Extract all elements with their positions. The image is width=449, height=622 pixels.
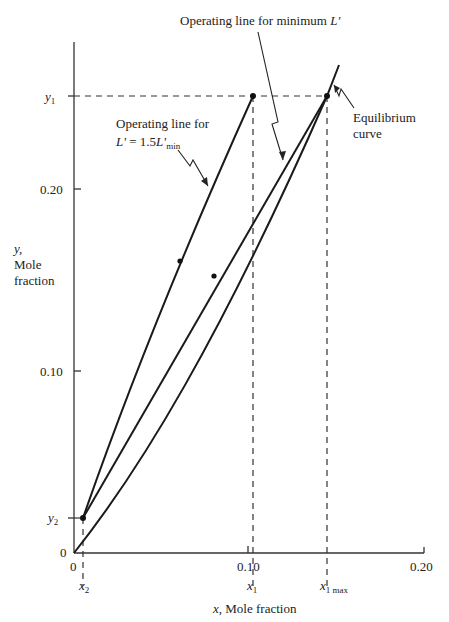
xtick-label-x1max: x1 max [319,578,349,595]
ytick-label-y1: y1 [43,89,55,106]
xtick-label-0: 0 [70,559,77,574]
arrowhead-min-line [279,151,286,160]
annotation-min-line: Operating line for minimum L' [180,13,340,28]
annotation-equilibrium-1: Equilibrium [353,110,416,125]
operating-line-minimum [83,96,327,518]
ytick-label-010: 0.10 [40,364,63,379]
point-x2-y2 [80,515,86,521]
xtick-label-x1: x1 [246,578,257,595]
xtick-label-020: 0.20 [410,559,433,574]
midpoint-min-line [211,273,216,278]
chart-canvas: Operating line for minimum L' Operating … [0,0,449,622]
y-axis-label-var: y, [12,241,22,256]
ytick-label-y2: y2 [46,510,58,527]
ytick-label-020: 0.20 [40,182,63,197]
y-axis-label-2: fraction [14,273,55,288]
point-x1max-y1 [324,93,330,99]
xtick-label-x2: x2 [78,578,89,595]
midpoint-1-5-line [177,258,182,263]
y-axis-label-1: Mole [14,257,42,272]
ytick-label-0: 0 [60,545,67,560]
annotation-1-5-line-1: Operating line for [116,116,210,131]
x-axis-label: x, Mole fraction [212,601,297,616]
equilibrium-curve [74,65,339,553]
annotation-equilibrium-2: curve [353,126,382,141]
point-x1-y1 [250,93,256,99]
arrowhead-1-5-line [201,177,208,186]
xtick-label-010: 0.10 [237,559,260,574]
annotation-1-5-line-2: L' = 1.5L'min [115,134,181,151]
